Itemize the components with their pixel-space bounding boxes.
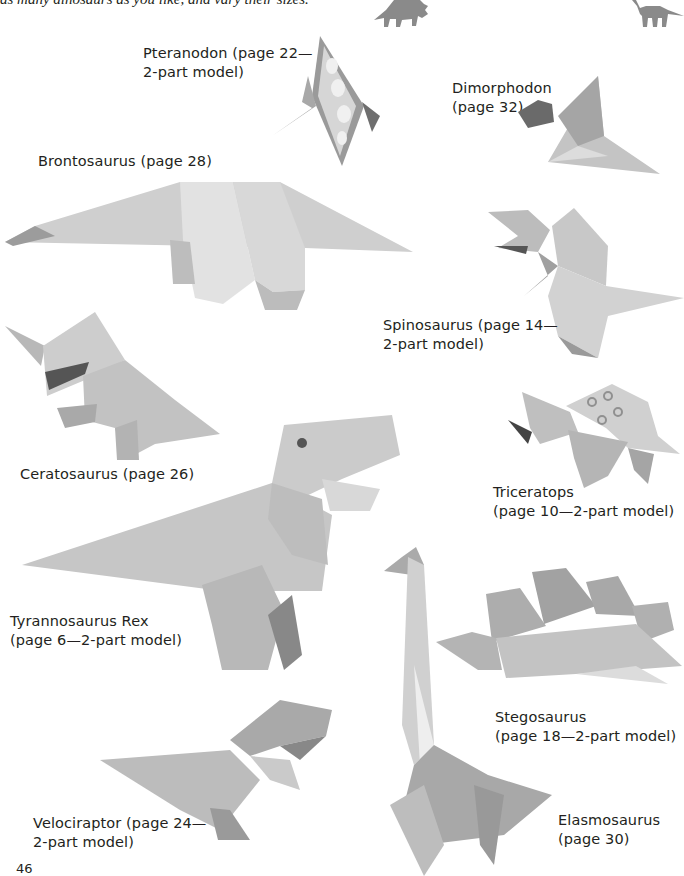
elasmosaurus-model-image <box>384 545 552 876</box>
dimorphodon-model-image <box>518 76 660 176</box>
velociraptor-label: Velociraptor (page 24— 2-part model) <box>33 814 206 852</box>
brontosaurus-model-image <box>5 180 413 310</box>
brontosaurus-silhouette-icon <box>632 0 684 28</box>
tyrannosaurus-rex-label: Tyrannosaurus Rex (page 6—2-part model) <box>10 612 182 650</box>
triceratops-model-image <box>508 384 680 488</box>
intro-text: as many dinosaurs as you like, and vary … <box>0 0 309 8</box>
triceratops-label: Triceratops (page 10—2-part model) <box>493 483 674 521</box>
spinosaurus-label: Spinosaurus (page 14— 2-part model) <box>383 316 558 354</box>
pteranodon-model-image <box>272 36 382 166</box>
elasmosaurus-label: Elasmosaurus (page 30) <box>558 811 660 849</box>
page-number: 46 <box>16 861 33 876</box>
triceratops-silhouette-icon <box>372 0 432 28</box>
brontosaurus-label: Brontosaurus (page 28) <box>38 152 212 171</box>
